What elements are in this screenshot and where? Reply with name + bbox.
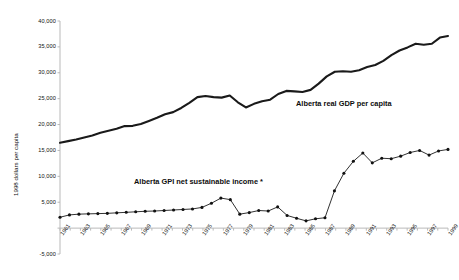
data-point-marker [134,210,137,213]
data-point-marker [200,206,203,209]
y-axis-tick-label: 20,000 [18,121,56,127]
y-axis-tick-label: 5,000 [18,199,56,205]
data-point-marker [305,219,308,222]
y-axis-title: 1998 dollars per capita [12,133,19,196]
data-point-marker [210,202,213,205]
data-point-marker [68,213,71,216]
data-point-marker [267,209,270,212]
data-point-marker [286,214,289,217]
data-point-marker [276,205,279,208]
data-point-marker [295,217,298,220]
data-point-marker [153,209,156,212]
data-point-marker [446,148,449,151]
data-point-marker [58,216,61,219]
data-point-marker [361,151,364,154]
data-point-marker [323,216,326,219]
data-point-marker [371,161,374,164]
data-point-marker [409,151,412,154]
data-point-marker [342,172,345,175]
data-point-marker [125,211,128,214]
data-point-marker [352,160,355,163]
data-point-marker [390,157,393,160]
data-point-marker [248,211,251,214]
data-point-marker [437,149,440,152]
data-point-marker [77,213,80,216]
data-point-marker [163,209,166,212]
series-group [58,36,449,222]
annotation-gpi-series: Alberta GPI net sustainable income * [134,177,263,186]
y-axis-tick-label: 30,000 [18,69,56,75]
series-line-gdp [60,36,448,143]
data-point-marker [229,198,232,201]
y-axis-tick-label: 15,000 [18,147,56,153]
data-point-marker [219,197,222,200]
data-point-marker [333,189,336,192]
data-point-marker [181,208,184,211]
y-axis-tick-label: 10,000 [18,173,56,179]
y-axis-tick-label: 35,000 [18,43,56,49]
data-point-marker [418,149,421,152]
data-point-marker [144,210,147,213]
data-point-marker [257,209,260,212]
y-axis-tick-label: -5,000 [18,251,56,257]
data-point-marker [172,208,175,211]
data-point-marker [115,211,118,214]
data-point-marker [314,217,317,220]
y-axis-tick-label: 25,000 [18,95,56,101]
y-axis-tick-label: 40,000 [18,18,56,24]
data-point-marker [380,157,383,160]
data-point-marker [428,154,431,157]
data-point-marker [87,212,90,215]
data-point-marker [399,155,402,158]
data-point-marker [238,213,241,216]
data-point-marker [106,212,109,215]
data-point-marker [191,207,194,210]
annotation-gdp-series: Alberta real GDP per capita [296,99,392,108]
data-point-marker [96,212,99,215]
